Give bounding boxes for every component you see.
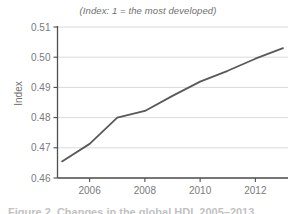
x-tick-label: 2006 — [79, 185, 102, 196]
y-tick-label: 0.47 — [31, 142, 51, 153]
figure-container: (Index: 1 = the most developed) Index 0.… — [0, 0, 296, 214]
x-tick-label: 2012 — [244, 185, 267, 196]
gridlines-group — [58, 27, 289, 178]
data-line — [62, 48, 283, 161]
x-tick-label: 2008 — [134, 185, 157, 196]
y-tick-label: 0.49 — [31, 82, 51, 93]
line-chart-plot: 0.460.470.480.490.500.51 200620082010201… — [0, 0, 296, 214]
data-series-group — [62, 48, 283, 161]
x-tick-label: 2010 — [189, 185, 212, 196]
figure-caption: Figure 2. Changes in the global HDI, 200… — [8, 206, 288, 214]
y-tick-label: 0.48 — [31, 112, 51, 123]
y-tick-label: 0.46 — [31, 173, 51, 184]
x-tick-labels-group: 2006200820102012 — [79, 185, 267, 196]
y-tick-labels-group: 0.460.470.480.490.500.51 — [31, 22, 51, 184]
y-tick-label: 0.50 — [31, 52, 51, 63]
y-tick-label: 0.51 — [31, 22, 51, 33]
